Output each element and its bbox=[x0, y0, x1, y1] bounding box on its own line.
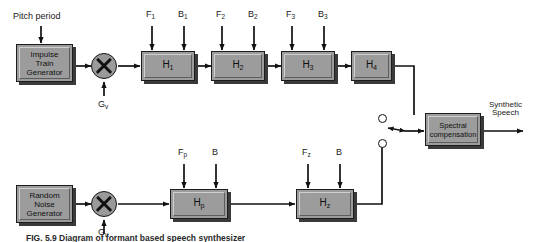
zero-bandwidth-label: B bbox=[336, 148, 342, 157]
random-noise-generator-label: Random Noise Generator bbox=[26, 191, 62, 218]
formant-3-frequency-label: F3 bbox=[286, 10, 295, 21]
formant-2-frequency-label: F2 bbox=[216, 10, 225, 21]
pole-frequency-label: Fp bbox=[178, 148, 187, 159]
pitch-period-label: Pitch period bbox=[13, 12, 61, 21]
formant-2-bandwidth-label: B2 bbox=[248, 10, 258, 21]
spectral-compensation-label: Spectral compensation bbox=[430, 121, 477, 139]
spectral-compensation-block[interactable]: Spectral compensation bbox=[425, 113, 481, 146]
switch-contact-voiced[interactable] bbox=[378, 114, 387, 123]
random-noise-generator-block[interactable]: Random Noise Generator bbox=[16, 185, 73, 223]
formant-filter-h2-block[interactable]: H2 bbox=[211, 51, 265, 81]
formant-3-bandwidth-label: B3 bbox=[318, 10, 328, 21]
formant-filter-h4-block[interactable]: H4 bbox=[351, 51, 392, 81]
gain-voiced-label: Gv bbox=[98, 100, 108, 111]
pole-filter-hp-block[interactable]: Hp bbox=[170, 189, 228, 219]
switch-contact-unvoiced[interactable] bbox=[378, 139, 387, 148]
impulse-train-generator-label: Impulse Train Generator bbox=[26, 50, 62, 77]
formant-filter-h4-label: H4 bbox=[366, 59, 377, 72]
voiced-multiplier[interactable] bbox=[91, 53, 117, 79]
zero-filter-hz-block[interactable]: Hz bbox=[296, 189, 354, 219]
formant-1-frequency-label: F1 bbox=[146, 10, 155, 21]
formant-filter-h2-label: H2 bbox=[232, 59, 243, 72]
zero-filter-hz-label: Hz bbox=[320, 197, 331, 210]
formant-1-bandwidth-label: B1 bbox=[178, 10, 188, 21]
zero-frequency-label: Fz bbox=[302, 148, 311, 159]
formant-filter-h1-label: H1 bbox=[162, 59, 173, 72]
formant-filter-h1-block[interactable]: H1 bbox=[141, 51, 195, 81]
formant-filter-h3-label: H3 bbox=[302, 59, 313, 72]
synthetic-speech-label: Synthetic Speech bbox=[489, 101, 522, 118]
pole-filter-hp-label: Hp bbox=[193, 197, 204, 210]
figure-caption: FIG. 5.9 Diagram of formant based speech… bbox=[26, 233, 506, 242]
pole-bandwidth-label: B bbox=[212, 148, 218, 157]
formant-filter-h3-block[interactable]: H3 bbox=[281, 51, 335, 81]
unvoiced-multiplier[interactable] bbox=[91, 191, 117, 217]
impulse-train-generator-block[interactable]: Impulse Train Generator bbox=[16, 44, 73, 82]
